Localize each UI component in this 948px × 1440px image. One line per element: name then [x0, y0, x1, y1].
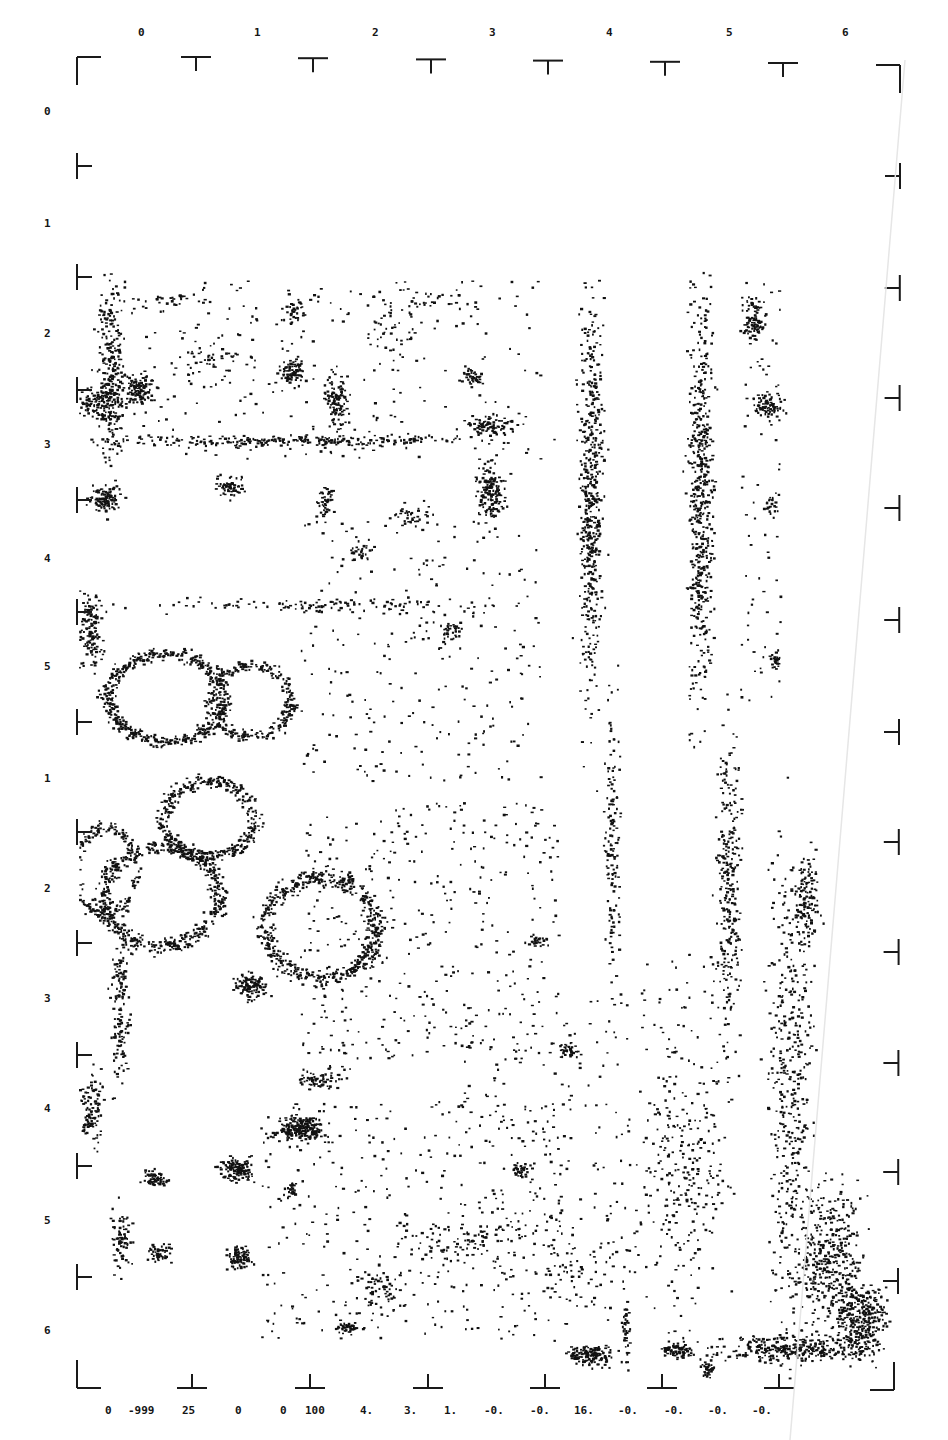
- top-axis-label: 1: [254, 26, 261, 39]
- top-axis-label: 2: [372, 26, 379, 39]
- top-axis-label: 0: [138, 26, 145, 39]
- left-axis-label: 2: [44, 882, 51, 895]
- bottom-value: -0.: [752, 1404, 772, 1417]
- top-axis-label: 6: [842, 26, 849, 39]
- left-axis-label: 3: [44, 992, 51, 1005]
- bottom-value: 0: [235, 1404, 242, 1417]
- bottom-value: -0.: [708, 1404, 728, 1417]
- dot-density-image: [79, 272, 892, 1380]
- bottom-value: 0: [105, 1404, 112, 1417]
- bottom-value: 3.: [404, 1404, 417, 1417]
- bottom-value: -999: [128, 1404, 155, 1417]
- bottom-value: -0.: [484, 1404, 504, 1417]
- bottom-value: 100: [305, 1404, 325, 1417]
- bottom-value: -0.: [618, 1404, 638, 1417]
- bottom-value: 16.: [574, 1404, 594, 1417]
- bottom-value: 4.: [360, 1404, 373, 1417]
- left-axis-label: 1: [44, 772, 51, 785]
- bottom-value: 0: [280, 1404, 287, 1417]
- left-axis-label: 3: [44, 438, 51, 451]
- left-axis-label: 4: [44, 552, 51, 565]
- plot-canvas: [0, 0, 948, 1440]
- top-axis-label: 5: [726, 26, 733, 39]
- left-axis-label: 5: [44, 1214, 51, 1227]
- paper-fold-line: [790, 60, 905, 1440]
- bottom-value: 1.: [444, 1404, 457, 1417]
- left-axis-label: 5: [44, 660, 51, 673]
- left-axis-label: 2: [44, 327, 51, 340]
- left-axis-label: 0: [44, 105, 51, 118]
- bottom-value: -0.: [664, 1404, 684, 1417]
- bottom-value: -0.: [530, 1404, 550, 1417]
- left-axis-label: 6: [44, 1324, 51, 1337]
- plot-frame: [77, 57, 900, 1390]
- top-axis-label: 3: [489, 26, 496, 39]
- left-axis-label: 1: [44, 217, 51, 230]
- left-axis-label: 4: [44, 1102, 51, 1115]
- bottom-value: 25: [182, 1404, 195, 1417]
- top-axis-label: 4: [606, 26, 613, 39]
